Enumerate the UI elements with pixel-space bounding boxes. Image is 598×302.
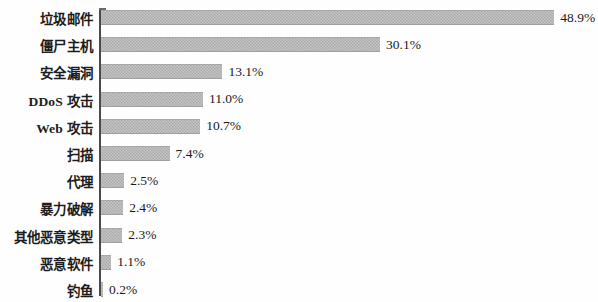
value-label: 11.0% [209,91,243,107]
value-label: 2.5% [130,173,158,189]
category-label: 僵尸主机 [0,35,93,55]
bar-and-value: 2.5% [101,173,158,188]
bar-row: 代理2.5% [0,170,598,192]
value-label: 48.9% [560,10,595,26]
bar [101,119,200,134]
category-label: Web 攻击 [0,117,93,137]
bar [101,64,222,79]
bar-row: DDoS 攻击11.0% [0,89,598,111]
bar [101,92,203,107]
bar-and-value: 13.1% [101,64,263,79]
bar-and-value: 2.4% [101,200,157,215]
bar-row: 恶意软件1.1% [0,252,598,274]
category-label: 扫描 [0,144,93,164]
category-label: 其他恶意类型 [0,226,93,246]
category-label: 代理 [0,171,93,191]
value-label: 13.1% [228,64,263,80]
category-label: 垃圾邮件 [0,8,93,28]
bar-and-value: 30.1% [101,37,421,52]
bar-row: 垃圾邮件48.9% [0,7,598,29]
bar-and-value: 48.9% [101,10,595,25]
value-label: 30.1% [386,37,421,53]
bar-and-value: 7.4% [101,146,204,161]
bar [101,200,123,215]
bar-and-value: 10.7% [101,119,241,134]
bar-row: 安全漏洞13.1% [0,61,598,83]
bar-and-value: 0.2% [101,282,137,297]
category-label: DDoS 攻击 [0,90,93,110]
value-label: 1.1% [117,254,145,270]
bar-row: 僵尸主机30.1% [0,34,598,56]
bar [101,37,380,52]
bar-row: 扫描7.4% [0,143,598,165]
bar-and-value: 1.1% [101,255,145,270]
bar-row: 其他恶意类型2.3% [0,225,598,247]
value-label: 7.4% [176,146,204,162]
bar [101,10,554,25]
bar [101,255,111,270]
category-label: 暴力破解 [0,198,93,218]
bar-row: Web 攻击10.7% [0,116,598,138]
value-label: 10.7% [206,118,241,134]
value-label: 2.4% [129,200,157,216]
bar-and-value: 2.3% [101,228,156,243]
bar-row: 钓鱼0.2% [0,279,598,301]
bar [101,173,124,188]
value-label: 2.3% [128,227,156,243]
category-label: 钓鱼 [0,280,93,300]
bar-row: 暴力破解2.4% [0,197,598,219]
bar [101,282,103,297]
bar [101,146,170,161]
bar [101,228,122,243]
bar-chart: 垃圾邮件48.9%僵尸主机30.1%安全漏洞13.1%DDoS 攻击11.0%W… [0,0,598,302]
bar-rows-container: 垃圾邮件48.9%僵尸主机30.1%安全漏洞13.1%DDoS 攻击11.0%W… [0,0,598,302]
bar-and-value: 11.0% [101,92,243,107]
value-label: 0.2% [109,282,137,298]
category-label: 安全漏洞 [0,62,93,82]
category-label: 恶意软件 [0,253,93,273]
